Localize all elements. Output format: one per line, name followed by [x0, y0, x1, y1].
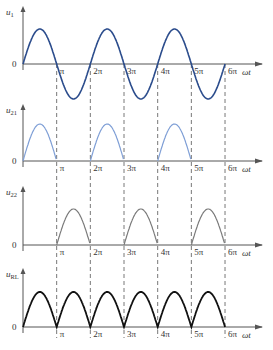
panel-u1: u10π2π3π4π5π6πωt: [6, 6, 263, 99]
tick-label-5pi: 5π: [194, 329, 204, 339]
tick-label-4pi: 4π: [161, 163, 171, 173]
origin-label: 0: [12, 240, 17, 250]
tick-label-3pi: 3π: [127, 329, 137, 339]
y-axis-label: u21: [6, 105, 17, 116]
origin-label: 0: [12, 59, 17, 69]
x-axis-arrow-icon: [255, 159, 263, 164]
x-axis-label: ωt: [242, 330, 251, 340]
y-axis-label: uRL: [6, 269, 19, 280]
tick-label-3pi: 3π: [127, 247, 137, 257]
tick-label-3pi: 3π: [127, 66, 137, 76]
tick-label-1pi: π: [60, 163, 65, 173]
tick-label-3pi: 3π: [127, 163, 137, 173]
tick-label-6pi: 6π: [228, 163, 238, 173]
tick-label-4pi: 4π: [161, 329, 171, 339]
tick-label-6pi: 6π: [228, 66, 238, 76]
waveform-u22: [57, 209, 225, 245]
x-axis-label: ωt: [242, 248, 251, 258]
tick-label-4pi: 4π: [161, 247, 171, 257]
panel-u22: u220π2π3π4π5π6πωt: [6, 186, 263, 258]
y-axis-arrow-icon: [21, 268, 26, 274]
x-axis-label: ωt: [242, 164, 251, 174]
tick-label-4pi: 4π: [161, 66, 171, 76]
tick-label-1pi: π: [60, 329, 65, 339]
tick-label-2pi: 2π: [93, 163, 103, 173]
x-axis-arrow-icon: [255, 62, 263, 67]
y-axis-label: u22: [6, 187, 17, 198]
origin-label: 0: [12, 156, 17, 166]
x-axis-label: ωt: [242, 67, 251, 77]
origin-label: 0: [12, 322, 17, 332]
tick-label-5pi: 5π: [194, 163, 204, 173]
tick-label-6pi: 6π: [228, 329, 238, 339]
rectifier-waveform-diagram: u10π2π3π4π5π6πωtu210π2π3π4π5π6πωtu220π2π…: [0, 0, 273, 350]
y-axis-arrow-icon: [21, 104, 26, 110]
y-axis-arrow-icon: [21, 186, 26, 192]
tick-label-2pi: 2π: [93, 66, 103, 76]
panel-uRL: uRL0π2π3π4π5π6πωt: [6, 268, 263, 340]
x-axis-arrow-icon: [255, 325, 263, 330]
tick-label-1pi: π: [60, 247, 65, 257]
x-axis-arrow-icon: [255, 243, 263, 248]
y-axis-arrow-icon: [21, 6, 26, 12]
tick-label-5pi: 5π: [194, 247, 204, 257]
panel-u21: u210π2π3π4π5π6πωt: [6, 104, 263, 174]
tick-label-2pi: 2π: [93, 247, 103, 257]
tick-label-6pi: 6π: [228, 247, 238, 257]
dashed-guides: [57, 64, 225, 338]
tick-label-2pi: 2π: [93, 329, 103, 339]
tick-label-5pi: 5π: [194, 66, 204, 76]
y-axis-label: u1: [6, 7, 14, 18]
